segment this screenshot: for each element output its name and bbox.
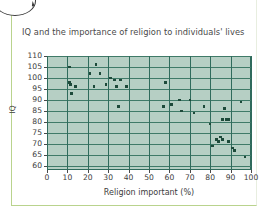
data-point — [227, 118, 230, 121]
data-point — [217, 140, 220, 143]
data-point — [69, 83, 72, 86]
data-point — [93, 85, 96, 88]
data-point — [89, 72, 92, 75]
y-tick-label: 80 — [20, 118, 42, 126]
data-point — [193, 112, 196, 115]
y-tick-label: 85 — [20, 107, 42, 115]
data-point — [244, 156, 247, 159]
y-tick-label: 105 — [20, 63, 42, 71]
gridline-vertical — [231, 56, 232, 170]
gridline-vertical — [210, 56, 211, 170]
data-point — [162, 105, 165, 108]
gridline-vertical — [67, 56, 68, 170]
data-point — [233, 149, 236, 152]
y-tick — [44, 155, 47, 156]
y-tick-label: 65 — [20, 151, 42, 159]
x-tick-label: 100 — [239, 174, 263, 182]
y-tick — [44, 122, 47, 123]
data-point — [68, 66, 71, 69]
y-tick-label: 110 — [20, 52, 42, 60]
data-point — [105, 83, 108, 86]
y-tick — [44, 67, 47, 68]
y-axis-title: IQ — [8, 95, 17, 125]
data-point — [221, 138, 224, 141]
x-axis-title: Religion important (%) — [47, 188, 251, 197]
y-tick — [44, 166, 47, 167]
data-point — [240, 101, 243, 104]
y-tick — [44, 111, 47, 112]
data-point — [95, 63, 98, 66]
data-point — [209, 123, 212, 126]
gridline-vertical — [108, 56, 109, 170]
data-point — [115, 85, 118, 88]
gridline-vertical — [190, 56, 191, 170]
gridline-vertical — [129, 56, 130, 170]
data-point — [203, 105, 206, 108]
data-point — [125, 85, 128, 88]
y-tick-label: 60 — [20, 162, 42, 170]
gridline-vertical — [149, 56, 150, 170]
data-point — [74, 85, 77, 88]
data-point — [113, 79, 116, 82]
gridline-vertical — [251, 56, 252, 170]
data-point — [211, 145, 214, 148]
data-point — [227, 140, 230, 143]
data-point — [178, 99, 181, 102]
y-tick-label: 100 — [20, 74, 42, 82]
data-point — [70, 92, 73, 95]
data-point — [189, 99, 192, 102]
scatter-chart: 6065707580859095100105110 01020304050607… — [0, 0, 269, 213]
data-point — [117, 105, 120, 108]
y-tick-label: 95 — [20, 85, 42, 93]
y-tick — [44, 133, 47, 134]
gridline-vertical — [169, 56, 170, 170]
y-tick-label: 75 — [20, 129, 42, 137]
gridline-vertical — [47, 56, 48, 170]
data-point — [109, 77, 112, 80]
data-point — [164, 81, 167, 84]
y-tick-label: 90 — [20, 96, 42, 104]
y-tick — [44, 100, 47, 101]
data-point — [180, 110, 183, 113]
data-point — [170, 103, 173, 106]
data-point — [99, 72, 102, 75]
data-point — [221, 118, 224, 121]
y-tick-label: 70 — [20, 140, 42, 148]
data-point — [119, 79, 122, 82]
y-tick — [44, 56, 47, 57]
y-tick — [44, 89, 47, 90]
y-tick — [44, 144, 47, 145]
y-tick — [44, 78, 47, 79]
data-point — [223, 107, 226, 110]
